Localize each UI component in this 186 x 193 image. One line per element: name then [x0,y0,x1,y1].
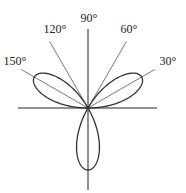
angle-labels: 30° 60° 90° 120° 150° [4,11,177,68]
label-120: 120° [44,22,67,36]
polar-rose-diagram: 30° 60° 90° 120° 150° [0,0,186,193]
label-90: 90° [81,11,98,25]
label-150: 150° [4,54,27,68]
ray-120 [50,41,89,108]
label-60: 60° [121,22,138,36]
label-30: 30° [160,54,177,68]
ray-60 [88,41,127,108]
